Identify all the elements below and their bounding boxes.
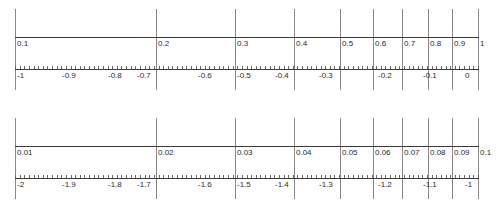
log-tick-label-top-0: -1 <box>17 71 24 81</box>
gridline-top-6 <box>402 9 403 90</box>
gridline-bottom-0 <box>15 118 16 199</box>
log-tick-label-top-6: -0.4 <box>275 71 289 81</box>
value-tick-label-top-2: 0.3 <box>237 39 248 49</box>
value-rule-bottom <box>15 146 479 147</box>
value-tick-label-bottom-3: 0.04 <box>296 148 312 158</box>
gridline-top-8 <box>452 9 453 90</box>
log-tick-label-bottom-5: -1.5 <box>237 180 251 190</box>
value-tick-label-bottom-2: 0.03 <box>237 148 253 158</box>
value-tick-label-top-1: 0.2 <box>158 39 169 49</box>
gridline-top-2 <box>235 9 236 90</box>
log-tick-label-bottom-9: -1.1 <box>423 180 437 190</box>
value-tick-label-bottom-1: 0.02 <box>158 148 174 158</box>
value-tick-label-top-8: 0.9 <box>454 39 465 49</box>
value-tick-label-top-0: 0.1 <box>17 39 28 49</box>
gridline-bottom-9 <box>478 118 479 199</box>
gridline-bottom-2 <box>235 118 236 199</box>
log-tick-label-bottom-8: -1.2 <box>378 180 392 190</box>
log-tick-label-bottom-2: -1.8 <box>108 180 122 190</box>
gridline-top-0 <box>15 9 16 90</box>
gridline-bottom-5 <box>373 118 374 199</box>
value-tick-label-bottom-4: 0.05 <box>342 148 358 158</box>
log-tick-label-top-3: -0.7 <box>137 71 151 81</box>
value-tick-label-top-3: 0.4 <box>296 39 307 49</box>
value-tick-label-top-6: 0.7 <box>404 39 415 49</box>
gridline-bottom-4 <box>340 118 341 199</box>
gridline-top-5 <box>373 9 374 90</box>
value-tick-label-bottom-8: 0.09 <box>454 148 470 158</box>
value-tick-label-top-9: 1 <box>480 39 484 49</box>
log-tick-label-top-2: -0.8 <box>108 71 122 81</box>
gridline-top-1 <box>156 9 157 90</box>
value-tick-label-bottom-9: 0.1 <box>480 148 491 158</box>
value-tick-label-top-7: 0.8 <box>430 39 441 49</box>
log-tick-label-top-9: -0.1 <box>423 71 437 81</box>
value-tick-label-bottom-6: 0.07 <box>404 148 420 158</box>
log-axis-rule-top <box>15 69 479 70</box>
log-tick-label-bottom-10: -1 <box>465 180 472 190</box>
value-tick-label-bottom-0: 0.01 <box>17 148 33 158</box>
value-tick-label-bottom-5: 0.06 <box>375 148 391 158</box>
log-tick-label-top-5: -0.5 <box>237 71 251 81</box>
log-tick-label-bottom-3: -1.7 <box>137 180 151 190</box>
gridline-bottom-3 <box>294 118 295 199</box>
log-tick-label-bottom-1: -1.9 <box>62 180 76 190</box>
log-tick-label-bottom-4: -1.6 <box>198 180 212 190</box>
log-scale-panel-bottom: 0.010.020.030.040.050.060.070.080.090.1 … <box>0 109 504 218</box>
log-tick-label-bottom-0: -2 <box>17 180 24 190</box>
value-tick-label-bottom-7: 0.08 <box>430 148 446 158</box>
log-axis-rule-bottom <box>15 178 479 179</box>
log-tick-label-top-8: -0.2 <box>378 71 392 81</box>
gridline-top-9 <box>478 9 479 90</box>
log-tick-label-bottom-7: -1.3 <box>319 180 333 190</box>
value-tick-label-top-5: 0.6 <box>375 39 386 49</box>
log-tick-label-top-4: -0.6 <box>198 71 212 81</box>
gridline-bottom-1 <box>156 118 157 199</box>
gridline-top-4 <box>340 9 341 90</box>
log-tick-label-top-7: -0.3 <box>319 71 333 81</box>
value-tick-label-top-4: 0.5 <box>342 39 353 49</box>
log-tick-label-bottom-6: -1.4 <box>275 180 289 190</box>
gridline-bottom-6 <box>402 118 403 199</box>
log-tick-label-top-1: -0.9 <box>62 71 76 81</box>
log-scale-panel-top: 0.10.20.30.40.50.60.70.80.91 -1-0.9-0.8-… <box>0 0 504 109</box>
gridline-bottom-8 <box>452 118 453 199</box>
log-tick-label-top-10: 0 <box>465 71 469 81</box>
gridline-top-3 <box>294 9 295 90</box>
value-rule-top <box>15 37 479 38</box>
